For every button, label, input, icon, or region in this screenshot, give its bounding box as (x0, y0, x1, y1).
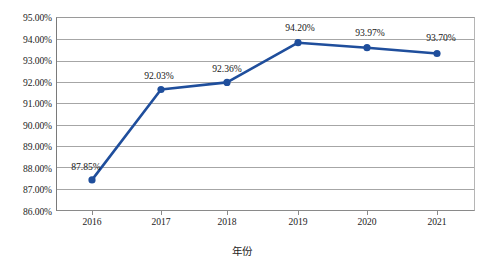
data-point-label: 93.97% (335, 27, 405, 38)
x-axis-tick-label: 2018 (197, 216, 257, 227)
x-axis-tick-label: 2017 (131, 216, 191, 227)
data-point-label: 92.36% (192, 63, 262, 74)
plot-area (56, 17, 475, 211)
x-axis-tick (298, 211, 299, 215)
gridline (57, 103, 474, 104)
y-axis-tick-label: 90.00% (0, 119, 52, 130)
data-point-hit-2020[interactable] (360, 41, 374, 55)
x-axis-tick-label: 2019 (268, 216, 328, 227)
data-point-hit-2016[interactable] (85, 173, 99, 187)
y-axis-tick-label: 94.00% (0, 33, 52, 44)
data-point-label: 87.85% (51, 161, 121, 172)
y-axis-tick-label: 95.00% (0, 12, 52, 23)
data-point-hit-2021[interactable] (430, 47, 444, 61)
line-chart: 95.00% 94.00% 93.00% 92.00% 91.00% 90.00… (0, 0, 483, 275)
x-axis-tick (437, 211, 438, 215)
x-axis-tick (161, 211, 162, 215)
data-point-hit-2019[interactable] (291, 36, 305, 50)
y-axis-tick-label: 87.00% (0, 184, 52, 195)
data-point-label: 94.20% (265, 22, 335, 33)
gridline (57, 61, 474, 62)
x-axis-tick (227, 211, 228, 215)
y-axis-tick-label: 89.00% (0, 141, 52, 152)
data-point-label: 92.03% (124, 70, 194, 81)
x-axis-tick (92, 211, 93, 215)
gridline (57, 82, 474, 83)
data-point-hit-2017[interactable] (154, 83, 168, 97)
y-axis-tick-label: 92.00% (0, 76, 52, 87)
gridline (57, 125, 474, 126)
x-axis-title: 年份 (0, 243, 483, 258)
gridline (57, 146, 474, 147)
x-axis-tick (367, 211, 368, 215)
y-axis-tick-label: 86.00% (0, 206, 52, 217)
y-axis-tick-label: 91.00% (0, 98, 52, 109)
gridline (57, 189, 474, 190)
x-axis-tick-label: 2016 (62, 216, 122, 227)
y-axis-tick-label: 93.00% (0, 55, 52, 66)
x-axis-tick-label: 2020 (337, 216, 397, 227)
y-axis-tick-label: 88.00% (0, 162, 52, 173)
x-axis-tick-label: 2021 (407, 216, 467, 227)
data-point-label: 93.70% (406, 32, 476, 43)
